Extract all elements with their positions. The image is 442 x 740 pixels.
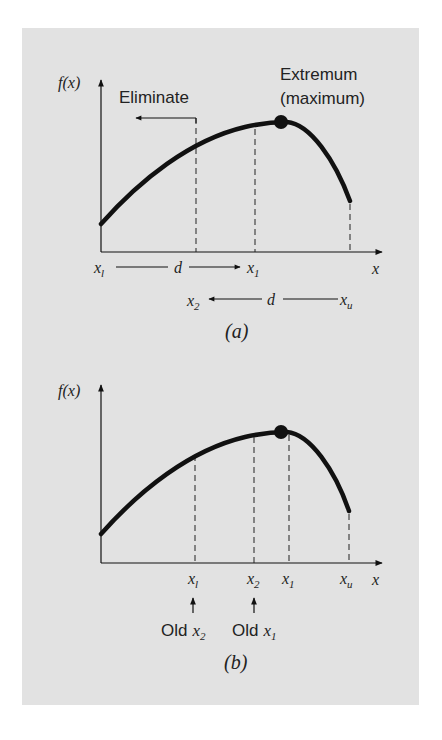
eliminate-label: Eliminate [119, 88, 189, 107]
label-x1: x1 [246, 259, 260, 279]
maximum-marker [274, 115, 288, 129]
label-x1: x1 [281, 570, 295, 590]
distance-label-top: d [174, 259, 183, 276]
eliminate-arrow [136, 118, 196, 123]
label-xu: xu [339, 570, 353, 590]
x-axis-label: x [371, 571, 379, 588]
x-axis-label: x [371, 260, 379, 277]
maximum-label: (maximum) [280, 89, 365, 108]
label-xu: xu [339, 291, 353, 311]
caption-a: (a) [225, 320, 249, 343]
caption-b: (b) [224, 651, 248, 674]
distance-label-bottom: d [267, 291, 276, 308]
function-curve [101, 122, 350, 224]
function-curve [101, 432, 349, 534]
label-xl: xl [187, 570, 198, 590]
y-axis-label: f(x) [58, 382, 80, 400]
y-axis-label: f(x) [58, 74, 80, 92]
golden-section-diagram: Eliminate Extremum (maximum) f(x) x x_1 … [0, 0, 442, 740]
label-old-x1: Oldx1 [232, 621, 277, 642]
maximum-marker [274, 425, 288, 439]
label-x2: x2 [186, 292, 200, 312]
panel-b: f(x) x xl x2 x1 xu Oldx2 Oldx1 (b) [58, 382, 382, 674]
label-x2: x2 [246, 570, 260, 590]
label-xl: xl [93, 259, 104, 279]
extremum-label: Extremum [280, 65, 357, 84]
panel-a: Eliminate Extremum (maximum) f(x) x x_1 … [58, 65, 382, 343]
label-old-x2: Oldx2 [161, 621, 206, 642]
